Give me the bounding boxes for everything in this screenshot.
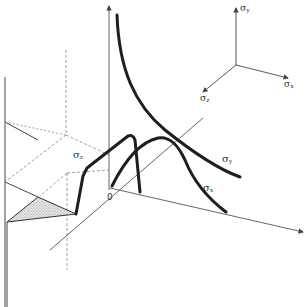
stress-diagram [0, 0, 306, 307]
specimen-outline [5, 77, 38, 307]
curve-label-sigma-z: σz [73, 150, 83, 160]
sigma-x-curve [112, 138, 226, 212]
sigma-z-curve [76, 136, 140, 215]
dashed-construction-lines [5, 50, 109, 270]
shaded-stress-triangle [7, 197, 76, 222]
axes-legend-triad [203, 8, 288, 92]
curve-label-sigma-y: σy [222, 154, 232, 164]
main-axes [50, 6, 303, 250]
curve-label-sigma-x: σx [203, 183, 213, 193]
legend-label-sigma-z: σz [200, 94, 209, 103]
legend-label-sigma-x: σx [284, 80, 294, 89]
legend-label-sigma-y: σy [240, 4, 250, 13]
origin-label: 0 [107, 193, 113, 202]
